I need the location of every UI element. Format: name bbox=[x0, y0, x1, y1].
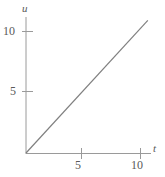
x-axis-label: t bbox=[153, 143, 156, 154]
x-tick-label-5: 5 bbox=[75, 159, 81, 171]
x-tick-label-10: 10 bbox=[131, 159, 143, 171]
y-tick-label-10: 10 bbox=[3, 25, 15, 37]
chart-figure: 10 5 5 10 u t bbox=[0, 0, 165, 177]
plot-canvas bbox=[0, 0, 165, 177]
y-tick-label-5: 5 bbox=[10, 85, 16, 97]
y-axis-label: u bbox=[22, 3, 28, 14]
data-line-u-equals-t bbox=[26, 20, 148, 153]
